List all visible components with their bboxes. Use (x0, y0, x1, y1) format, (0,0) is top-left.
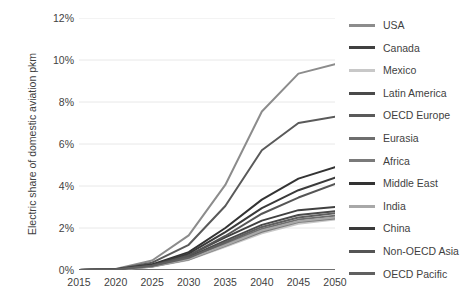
x-tick-label: 2015 (67, 276, 90, 288)
legend-swatch-oecd-pacific (349, 272, 375, 275)
legend-swatch-mexico (349, 69, 375, 72)
legend-swatch-canada (349, 46, 375, 49)
legend-item-latin-america[interactable]: Latin America (349, 82, 468, 105)
y-tick-label: 0% (20, 264, 74, 276)
plot-area (79, 18, 335, 270)
x-tick-label: 2050 (323, 276, 346, 288)
legend-label-latin-america: Latin America (383, 88, 447, 99)
legend-label-usa: USA (383, 20, 405, 31)
x-tick-label: 2045 (287, 276, 310, 288)
y-tick-label: 4% (20, 180, 74, 192)
x-tick-label: 2035 (214, 276, 237, 288)
series-line-non-oecd-asia (79, 184, 335, 270)
legend-item-africa[interactable]: Africa (349, 150, 468, 173)
legend-item-eurasia[interactable]: Eurasia (349, 127, 468, 150)
legend-item-usa[interactable]: USA (349, 14, 468, 37)
legend-swatch-non-oecd-asia (349, 250, 375, 253)
legend-label-non-oecd-asia: Non-OECD Asia (383, 246, 459, 257)
legend-swatch-usa (349, 24, 375, 27)
x-tick-label: 2025 (140, 276, 163, 288)
legend-item-oecd-pacific[interactable]: OECD Pacific (349, 263, 468, 286)
legend-swatch-oecd-europe (349, 114, 375, 117)
legend-swatch-middle-east (349, 182, 375, 185)
legend-swatch-eurasia (349, 137, 375, 140)
legend-item-middle-east[interactable]: Middle East (349, 172, 468, 195)
x-tick-label: 2040 (250, 276, 273, 288)
legend-label-oecd-pacific: OECD Pacific (383, 269, 447, 280)
legend-label-oecd-europe: OECD Europe (383, 110, 450, 121)
legend-label-india: India (383, 201, 406, 212)
y-tick-label: 6% (20, 138, 74, 150)
chart-container: Electric share of domestic aviation pkm … (0, 0, 468, 304)
legend-item-china[interactable]: China (349, 217, 468, 240)
y-tick-label: 8% (20, 96, 74, 108)
legend-item-oecd-europe[interactable]: OECD Europe (349, 104, 468, 127)
legend-swatch-africa (349, 159, 375, 162)
y-tick-label: 10% (20, 54, 74, 66)
legend-label-africa: Africa (383, 156, 410, 167)
legend-label-eurasia: Eurasia (383, 133, 419, 144)
x-tick-label: 2020 (104, 276, 127, 288)
line-chart-svg (79, 18, 335, 270)
legend-item-canada[interactable]: Canada (349, 37, 468, 60)
legend-label-middle-east: Middle East (383, 178, 438, 189)
legend-label-mexico: Mexico (383, 65, 416, 76)
legend-item-non-oecd-asia[interactable]: Non-OECD Asia (349, 240, 468, 263)
chart-legend: USACanadaMexicoLatin AmericaOECD EuropeE… (349, 14, 468, 285)
legend-item-india[interactable]: India (349, 195, 468, 218)
legend-swatch-india (349, 205, 375, 208)
legend-label-canada: Canada (383, 43, 420, 54)
y-axis-tick-labels: 0%2%4%6%8%10%12% (20, 18, 74, 270)
y-tick-label: 12% (20, 12, 74, 24)
legend-item-mexico[interactable]: Mexico (349, 59, 468, 82)
y-tick-label: 2% (20, 222, 74, 234)
legend-swatch-latin-america (349, 92, 375, 95)
legend-label-china: China (383, 223, 410, 234)
x-tick-label: 2030 (177, 276, 200, 288)
legend-swatch-china (349, 227, 375, 230)
x-axis-tick-labels: 20152020202520302035204020452050 (79, 276, 335, 294)
